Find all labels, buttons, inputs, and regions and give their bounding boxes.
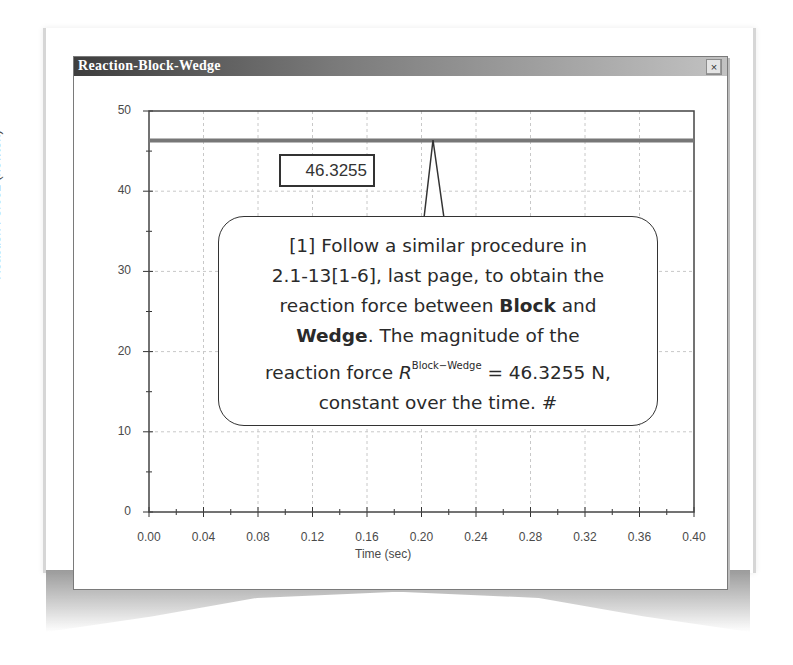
callout-line-1: [1] Follow a similar procedure in (219, 231, 657, 261)
value-label-box: 46.3255 (279, 154, 375, 187)
y-tick-label: 10 (101, 424, 131, 438)
y-tick-label: 30 (101, 263, 131, 277)
callout-line-2: 2.1-13[1-6], last page, to obtain the (219, 261, 657, 291)
y-axis-label: Reaction Force2 (newton) (0, 110, 3, 300)
x-tick-label: 0.08 (238, 530, 278, 544)
x-tick-label: 0.28 (511, 530, 551, 544)
wedge-term: Wedge (296, 325, 367, 346)
annotation-callout: [1] Follow a similar procedure in 2.1-13… (218, 216, 658, 426)
callout-pointer (424, 140, 444, 218)
x-tick-label: 0.24 (456, 530, 496, 544)
y-tick-label: 40 (101, 183, 131, 197)
force-superscript: Block−Wedge (412, 360, 482, 371)
x-tick-label: 0.16 (347, 530, 387, 544)
callout-line-6: constant over the time. # (219, 388, 657, 418)
x-tick-label: 0.32 (565, 530, 605, 544)
x-tick-label: 0.20 (402, 530, 442, 544)
x-tick-label: 0.04 (184, 530, 224, 544)
force-symbol: R (399, 362, 412, 383)
block-term: Block (499, 295, 555, 316)
callout-line-4: Wedge. The magnitude of the (219, 321, 657, 351)
callout-line-5: reaction force RBlock−Wedge = 46.3255 N, (219, 351, 657, 388)
callout-line-3: reaction force between Block and (219, 291, 657, 321)
y-tick-label: 50 (101, 103, 131, 117)
x-axis-label: Time (sec) (355, 547, 411, 561)
y-tick-label: 20 (101, 344, 131, 358)
x-tick-label: 0.40 (674, 530, 714, 544)
y-tick-label: 0 (101, 504, 131, 518)
x-tick-label: 0.36 (620, 530, 660, 544)
x-tick-label: 0.00 (129, 530, 169, 544)
x-tick-label: 0.12 (293, 530, 333, 544)
